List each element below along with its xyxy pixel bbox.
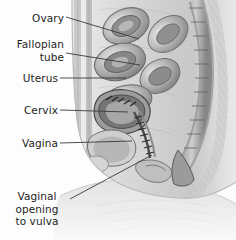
label-vaginal-opening-line-2: opening: [6, 203, 68, 216]
label-ovary-line-1: Ovary: [2, 12, 64, 25]
label-vagina-line-1: Vagina: [2, 137, 58, 150]
label-ovary: Ovary: [2, 12, 64, 25]
label-vagina: Vagina: [2, 137, 58, 150]
label-fallopian-tube-line-2: tube: [2, 51, 64, 64]
label-vaginal-opening-to-vulva: Vaginal opening to vulva: [6, 190, 68, 228]
label-uterus-line-1: Uterus: [2, 72, 58, 85]
label-vaginal-opening-line-1: Vaginal: [6, 190, 68, 203]
label-cervix: Cervix: [2, 104, 58, 117]
label-cervix-line-1: Cervix: [2, 104, 58, 117]
label-fallopian-tube: Fallopian tube: [2, 38, 64, 63]
anatomy-figure: Ovary Fallopian tube Uterus Cervix Vagin…: [0, 0, 236, 240]
label-layer: Ovary Fallopian tube Uterus Cervix Vagin…: [0, 0, 236, 240]
label-uterus: Uterus: [2, 72, 58, 85]
label-vaginal-opening-line-3: to vulva: [6, 215, 68, 228]
label-fallopian-tube-line-1: Fallopian: [2, 38, 64, 51]
